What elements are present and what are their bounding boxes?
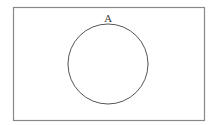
set-a-label: A (103, 13, 112, 24)
venn-diagram: A (0, 0, 212, 125)
